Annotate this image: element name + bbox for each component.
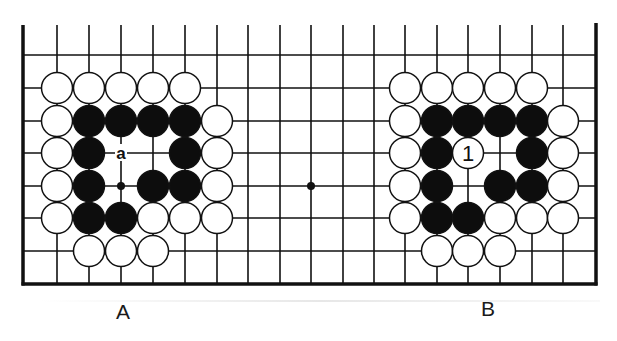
white-stone-icon [202,171,233,202]
white-stone-icon [517,73,548,104]
white-stone-icon [390,171,421,202]
black-stone-icon [74,138,105,169]
white-stone-icon [170,73,201,104]
black-stone-icon [106,106,137,137]
white-stone-icon [390,138,421,169]
white-stone-icon [74,73,105,104]
diagram-label-b: B [481,297,495,321]
white-stone-icon [202,106,233,137]
white-stone-icon [42,138,73,169]
black-stone-icon [138,171,169,202]
white-stone-icon [453,236,484,267]
black-stone-icon [453,203,484,234]
black-stone-icon [485,171,516,202]
black-stone-icon [453,106,484,137]
white-stone-icon [390,106,421,137]
black-stone-icon [138,106,169,137]
star-point-icon [117,182,125,190]
black-stone-icon [517,171,548,202]
white-stone-icon [548,138,579,169]
black-stone-icon [517,106,548,137]
white-stone-icon [170,203,201,234]
black-stone-icon [422,138,453,169]
white-stone-icon [422,236,453,267]
black-stone-icon [422,203,453,234]
move-number: 1 [462,141,474,166]
white-stone-icon [202,203,233,234]
black-stone-icon [74,203,105,234]
white-stone-icon [453,73,484,104]
stones: 1 [42,73,579,267]
white-stone-icon [138,73,169,104]
go-board: a 1 [0,0,617,341]
star-point-icon [307,182,315,190]
black-stone-icon [422,106,453,137]
black-stone-icon [485,106,516,137]
white-stone-icon [390,203,421,234]
white-stone-icon [548,203,579,234]
white-stone-icon [485,203,516,234]
white-stone-icon [485,236,516,267]
white-stone-icon [42,203,73,234]
white-stone-icon [42,73,73,104]
black-stone-icon [170,106,201,137]
black-stone-icon [517,138,548,169]
white-stone-icon [548,171,579,202]
white-stone-icon [106,73,137,104]
diagram-label-a: A [116,300,130,324]
white-stone-icon [390,73,421,104]
white-stone-icon [74,236,105,267]
white-stone-icon [42,171,73,202]
black-stone-icon [170,171,201,202]
point-labels: a [115,144,127,163]
black-stone-icon [106,203,137,234]
white-stone-icon [202,138,233,169]
white-stone-icon [548,106,579,137]
white-stone-icon [42,106,73,137]
white-stone-icon [422,73,453,104]
white-stone-icon [138,203,169,234]
black-stone-icon [74,106,105,137]
point-label-a: a [116,144,126,163]
black-stone-icon [74,171,105,202]
white-stone-icon [106,236,137,267]
white-stone-icon [517,203,548,234]
black-stone-icon [170,138,201,169]
white-stone-icon [138,236,169,267]
white-stone-icon [485,73,516,104]
black-stone-icon [422,171,453,202]
